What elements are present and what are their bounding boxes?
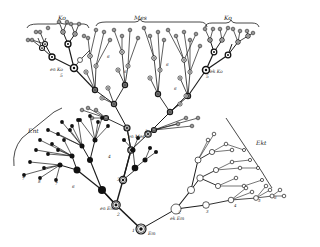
tree-node: [268, 188, 272, 192]
tree-node: [208, 38, 212, 42]
ekt-tip-label: 5: [258, 198, 261, 203]
tree-node: [108, 38, 112, 42]
group-label-ekt: Ekt: [255, 139, 267, 146]
tree-node: [246, 34, 250, 38]
tree-node: [226, 26, 230, 30]
tree-node: [195, 157, 201, 163]
tree-node: [206, 138, 210, 142]
mes-small-label: 6: [166, 62, 169, 67]
tree-node: [152, 56, 156, 60]
tree-node: [209, 149, 214, 154]
mes-small-label: 6: [107, 54, 110, 59]
tree-node: [120, 34, 124, 38]
tree-node: [187, 186, 194, 193]
tree-node: [50, 142, 54, 146]
tree-node: [34, 148, 38, 152]
tree-node: [38, 138, 42, 142]
tree-node: [178, 76, 182, 80]
tree-node: [77, 22, 81, 26]
tree-node: [106, 124, 110, 128]
tree-node: [282, 194, 286, 198]
tree-node: [245, 29, 249, 33]
tree-node: [122, 82, 127, 87]
tree-node: [65, 41, 71, 47]
tree-node: [215, 183, 220, 188]
tree-node: [122, 138, 126, 142]
tree-node: [128, 28, 132, 32]
tree-node: [98, 186, 106, 194]
group-label-mes: Mes: [133, 14, 147, 21]
node-label-mid-center: en Mes: [128, 134, 145, 139]
tree-node: [251, 31, 255, 35]
tree-node: [70, 124, 74, 128]
tree-node: [42, 166, 46, 170]
node-label-ko-right-num: 5: [206, 74, 209, 79]
tree-node: [30, 38, 34, 42]
tree-node: [197, 175, 203, 181]
ent-tip-label: 6: [72, 184, 75, 189]
tree-node: [74, 167, 81, 174]
tree-node: [86, 106, 90, 110]
tree-node: [174, 34, 178, 38]
tree-node: [190, 124, 194, 128]
tree-node: [119, 176, 126, 183]
tree-node: [38, 30, 42, 34]
tree-node: [242, 148, 245, 151]
tree-node: [132, 165, 139, 172]
tree-node: [102, 30, 106, 34]
tree-node: [154, 150, 158, 154]
tree-node: [224, 142, 228, 146]
node-label-root: Em: [147, 231, 156, 236]
tree-node: [236, 40, 240, 44]
tree-node: [250, 190, 254, 194]
node-label-root-num: 1: [132, 228, 135, 233]
tree-node: [248, 158, 251, 161]
tree-node: [182, 30, 186, 34]
tree-node: [203, 27, 207, 31]
tree-node: [231, 27, 235, 31]
tree-node: [88, 54, 92, 58]
node-label-mid-left: 3: [117, 177, 120, 182]
tree-node: [167, 109, 172, 114]
tree-node: [188, 70, 192, 74]
tree-node: [218, 27, 222, 31]
tree-node: [225, 52, 231, 58]
tree-node: [93, 138, 98, 143]
tree-node: [96, 120, 100, 124]
tree-node: [148, 76, 152, 80]
tree-node: [80, 144, 85, 149]
tree-node: [40, 46, 45, 51]
tree-node: [116, 68, 120, 72]
tree-node: [136, 224, 146, 234]
tree-node: [34, 30, 38, 34]
tree-node: [87, 157, 93, 163]
tree-node: [188, 38, 192, 42]
tree-node: [46, 128, 50, 132]
tree-node: [264, 184, 268, 188]
tree-node: [162, 38, 166, 42]
tree-node: [148, 146, 152, 150]
tree-node: [78, 58, 83, 63]
tree-node: [111, 101, 116, 106]
tree-node: [84, 70, 88, 74]
tree-node: [88, 114, 92, 118]
group-label-ent: Ent: [27, 127, 39, 134]
tree-node: [71, 65, 78, 72]
node-label-mid-center-num: 3: [145, 129, 148, 134]
tree-node: [143, 158, 148, 163]
tree-node: [69, 22, 73, 26]
tree-node: [158, 68, 162, 72]
tree-node: [56, 148, 60, 152]
tree-node: [136, 36, 140, 40]
tree-node: [256, 166, 259, 169]
tree-node: [142, 26, 146, 30]
tree-node: [194, 32, 198, 36]
tree-node: [70, 154, 75, 159]
tree-node: [228, 197, 234, 203]
tree-node: [184, 94, 188, 98]
tree-nodes: [22, 20, 286, 234]
group-label-ko-left: Ko: [57, 14, 66, 21]
tree-labels: Ko Mes Ko Ent Ekt Em 1 en Em 2 ek Em 2 3…: [22, 14, 277, 236]
tree-node: [212, 132, 216, 136]
ekt-tip-label: 3: [206, 209, 209, 214]
